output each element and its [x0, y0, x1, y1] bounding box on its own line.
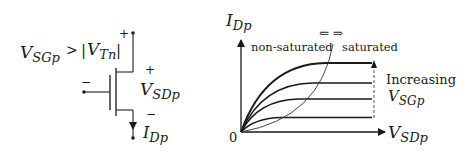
- origin-label: 0: [229, 130, 237, 145]
- vsd-plus-sign: +: [145, 63, 155, 77]
- region-arrows: ⇐ ⇒: [319, 26, 343, 40]
- saturation-boundary-curve: [241, 44, 333, 132]
- pmos-circuit: VSGp > | VTn | + − + VSDp − IDp: [20, 27, 181, 145]
- abs-bar-left: |: [81, 41, 86, 59]
- abs-bar-right: |: [116, 41, 121, 59]
- condition-rhs: VTn: [87, 39, 116, 62]
- gate-minus-sign: −: [81, 75, 91, 89]
- vsd-minus-sign: −: [146, 107, 156, 121]
- curve-vsg-1: [241, 118, 372, 133]
- non-saturated-label: non-saturated: [251, 40, 333, 54]
- source-plus-sign: +: [119, 27, 129, 41]
- saturated-label: saturated: [342, 40, 399, 54]
- y-axis-label: IDp: [225, 10, 252, 33]
- id-label: IDp: [142, 123, 169, 145]
- condition-operator: >: [66, 42, 78, 58]
- x-axis-label: VSDp: [388, 122, 429, 145]
- condition-lhs: VSGp: [20, 42, 61, 65]
- increasing-arrow-icon: [371, 60, 377, 68]
- drain-terminal: [131, 136, 135, 140]
- curve-vsg-4: [241, 63, 372, 132]
- iv-characteristics-graph: IDp VSDp 0 ⇐ ⇒ non-saturated saturated I…: [225, 10, 456, 145]
- mosfet-diagram: VSGp > | VTn | + − + VSDp − IDp IDp: [0, 0, 466, 156]
- curve-vsg-3: [241, 83, 372, 132]
- current-arrow-icon: [129, 122, 137, 130]
- increasing-label: Increasing: [386, 72, 456, 87]
- vsd-label: VSDp: [140, 79, 181, 102]
- increasing-vsg-label: VSGp: [388, 87, 425, 108]
- gate-terminal: [82, 90, 86, 94]
